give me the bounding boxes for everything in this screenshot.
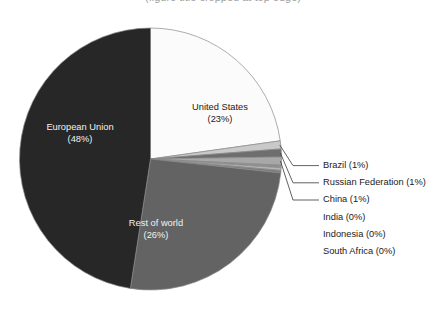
pie-chart-screenshot: (figure title cropped at top edge) Europ… bbox=[0, 0, 446, 316]
legend-item-label: India (0%) bbox=[323, 212, 365, 223]
legend-item-label: Brazil (1%) bbox=[323, 160, 368, 171]
pie-slice-rest-of-world bbox=[130, 159, 280, 290]
pie-slice-united-states bbox=[151, 28, 281, 159]
legend-item-china: China (1%) bbox=[323, 191, 446, 208]
pie-slice-group bbox=[20, 28, 282, 290]
legend-item-label: Indonesia (0%) bbox=[323, 229, 386, 240]
legend-item-russian-federation: Russian Federation (1%) bbox=[323, 174, 446, 191]
legend-item-label: South Africa (0%) bbox=[323, 246, 395, 257]
legend-item-brazil: Brazil (1%) bbox=[323, 157, 446, 174]
pie-slice-european-union bbox=[20, 28, 151, 288]
legend: Brazil (1%)Russian Federation (1%)China … bbox=[323, 157, 446, 260]
legend-item-label: China (1%) bbox=[323, 194, 370, 205]
legend-item-indonesia: Indonesia (0%) bbox=[323, 226, 446, 243]
leader-line-brazil bbox=[280, 145, 319, 166]
legend-item-india: India (0%) bbox=[323, 209, 446, 226]
legend-item-label: Russian Federation (1%) bbox=[323, 177, 426, 188]
leader-line-group bbox=[280, 145, 319, 200]
legend-item-south-africa: South Africa (0%) bbox=[323, 243, 446, 260]
